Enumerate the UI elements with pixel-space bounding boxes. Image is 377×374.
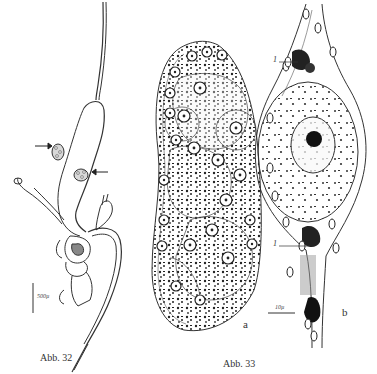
- panel-b-cyst: [255, 4, 366, 348]
- arrow-icons: [35, 143, 108, 175]
- panel-label-a: a: [243, 318, 248, 330]
- scale-bar-label-32: 500µ: [37, 293, 49, 299]
- organ-drawing: [0, 0, 140, 374]
- callout-label-1-top: 1: [273, 55, 277, 64]
- callout-label-1-bottom: 1: [273, 239, 277, 248]
- caption-abb-33: Abb. 33: [223, 358, 255, 369]
- panel-label-b: b: [342, 306, 348, 318]
- scale-bar-label-33: 10µ: [275, 304, 284, 310]
- figure-abb-32: 500µ Abb. 32: [0, 0, 140, 374]
- panel-a-follicle: [152, 41, 261, 330]
- figure-abb-33: 1 1 10µ a b Abb. 33: [140, 0, 377, 374]
- caption-abb-32: Abb. 32: [40, 352, 72, 363]
